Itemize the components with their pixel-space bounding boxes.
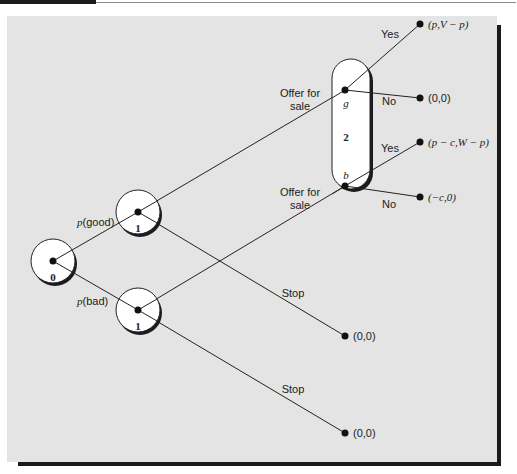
root-dot [50, 258, 57, 265]
game-tree: 0 1 1 2 g b p(good) p(bad) Offer for sal… [0, 0, 517, 474]
info-b-dot [342, 183, 349, 190]
terminal-bad-yes [417, 139, 424, 146]
info-set-player-label: 2 [343, 131, 349, 143]
branch-label-offer-good-2: sale [290, 100, 310, 112]
branch-label-no-bad: No [382, 198, 396, 210]
payoff-good-yes: (p,V − p) [428, 18, 469, 31]
information-set-2 [332, 59, 373, 192]
good-dot [135, 209, 142, 216]
branch-label-yes-bad: Yes [381, 142, 399, 154]
branch-label-p-good: p(good) [76, 216, 114, 228]
terminal-bad-no [417, 194, 424, 201]
terminal-good-no [417, 95, 424, 102]
payoff-good-stop: (0,0) [353, 330, 376, 342]
branch-label-stop-good: Stop [282, 287, 305, 299]
terminal-good-yes [417, 21, 424, 28]
good-player-label: 1 [135, 222, 141, 234]
info-g-dot [342, 87, 349, 94]
branch-label-offer-bad-1: Offer for [280, 186, 320, 198]
branch-label-stop-bad: Stop [282, 383, 305, 395]
bad-dot [135, 307, 142, 314]
terminal-good-stop [342, 333, 349, 340]
payoff-bad-no: (−c,0) [428, 191, 456, 204]
terminal-bad-stop [342, 430, 349, 437]
payoff-bad-stop: (0,0) [353, 427, 376, 439]
bad-player-label: 1 [135, 320, 141, 332]
branch-label-offer-good-1: Offer for [280, 87, 320, 99]
edge-stop-bad [138, 310, 345, 433]
edge-offer-bad [138, 186, 345, 310]
edge-stop-good [138, 212, 345, 336]
tree-edges [53, 90, 345, 433]
branch-label-p-bad: p(bad) [76, 295, 108, 307]
info-set-g-label: g [343, 97, 349, 109]
branch-label-yes-good: Yes [381, 28, 399, 40]
payoff-bad-yes: (p − c,W − p) [428, 136, 489, 149]
branch-label-offer-bad-2: sale [290, 199, 310, 211]
branch-label-no-good: No [382, 95, 396, 107]
payoff-good-no: (0,0) [428, 92, 451, 104]
root-player-label: 0 [50, 271, 56, 283]
info-set-b-label: b [343, 169, 349, 181]
